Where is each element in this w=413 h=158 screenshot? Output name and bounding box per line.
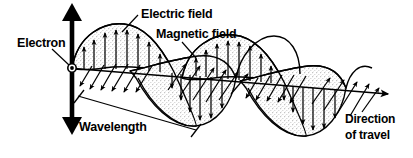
direction-of-travel-label-line2: of travel: [345, 128, 390, 142]
electron-label: Electron: [17, 36, 65, 50]
electric-field-label: Electric field: [141, 7, 213, 21]
diagram-canvas: Electron Electric field Magnetic field W…: [0, 0, 413, 158]
magnetic-field-label: Magnetic field: [156, 27, 237, 41]
electron-dot-core: [70, 66, 74, 70]
em-wave-diagram: Electron Electric field Magnetic field W…: [0, 0, 413, 158]
electron-leader-line: [52, 49, 69, 65]
direction-of-travel-label-line1: Direction: [345, 112, 395, 126]
magnetic-field-leader-line: [182, 42, 196, 58]
wavelength-label: Wavelength: [79, 120, 147, 134]
